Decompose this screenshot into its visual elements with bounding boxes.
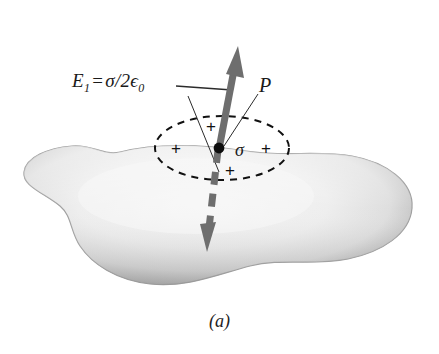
- charge-plus-left: +: [171, 139, 181, 159]
- charged-conducting-surface: [24, 145, 412, 284]
- surface-charge-density-label: σ: [235, 140, 244, 161]
- field-value: σ/2ϵ: [105, 70, 138, 91]
- equals-sign: =: [90, 70, 105, 91]
- charge-plus-bottom: +: [225, 161, 235, 181]
- field-value-subscript: 0: [138, 81, 144, 95]
- electric-field-arrow-up: [219, 46, 244, 149]
- physics-diagram: [0, 0, 439, 354]
- point-p-dot: [214, 143, 225, 154]
- charge-plus-right: +: [261, 139, 271, 159]
- figure-caption: (a): [0, 311, 439, 332]
- point-label: P: [259, 74, 271, 97]
- charge-plus-top: +: [206, 117, 216, 137]
- field-magnitude-label: E1=σ/2ϵ0: [72, 70, 145, 96]
- field-symbol: E: [72, 70, 84, 91]
